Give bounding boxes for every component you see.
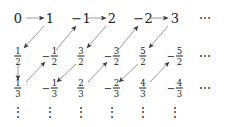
fraction-denominator: 3: [176, 89, 183, 98]
fraction-numerator: 2: [113, 79, 120, 88]
row-ellipsis-2: ⋯: [199, 81, 212, 95]
fraction: 32: [113, 47, 120, 66]
minus-sign: −: [42, 51, 50, 61]
fraction: 23: [77, 79, 84, 98]
grid-cell-r0-c3: 2: [108, 12, 116, 25]
fraction-denominator: 3: [77, 89, 84, 98]
fraction-denominator: 2: [51, 57, 58, 66]
grid-cell-r0-c0: 0: [14, 12, 22, 25]
fraction-numerator: 1: [14, 47, 21, 56]
fraction-numerator: 4: [139, 79, 146, 88]
fraction-denominator: 2: [14, 57, 21, 66]
integer-value: 2: [145, 12, 153, 25]
fraction: 43: [139, 79, 146, 98]
grid-cell-r1-c5: −52: [167, 47, 183, 66]
grid-cell-r1-c0: 12: [14, 47, 21, 66]
column-ellipsis-3: ⋮: [106, 106, 118, 118]
fraction-numerator: 1: [51, 47, 58, 56]
fraction-denominator: 2: [139, 57, 146, 66]
number-grid: 01−12−2312−1232−3252−5213−1323−2343−43⋯⋯…: [0, 0, 234, 127]
fraction: 12: [14, 47, 21, 66]
grid-cell-r0-c1: 1: [46, 12, 54, 25]
grid-cell-r2-c5: −43: [167, 79, 183, 98]
integer-value: 1: [83, 12, 91, 25]
minus-sign: −: [133, 12, 144, 25]
grid-cell-r2-c4: 43: [139, 79, 146, 98]
integer-value: 0: [14, 12, 22, 25]
integer-value: 2: [108, 12, 116, 25]
fraction-numerator: 5: [176, 47, 183, 56]
fraction-numerator: 3: [113, 47, 120, 56]
grid-cell-r0-c5: 3: [171, 12, 179, 25]
fraction: 13: [14, 79, 21, 98]
fraction-denominator: 3: [51, 89, 58, 98]
fraction-numerator: 4: [176, 79, 183, 88]
grid-cell-r2-c0: 13: [14, 79, 21, 98]
minus-sign: −: [167, 83, 175, 93]
fraction-denominator: 3: [14, 89, 21, 98]
grid-cell-r0-c4: −2: [133, 12, 153, 25]
fraction-numerator: 1: [14, 79, 21, 88]
grid-cell-r1-c1: −12: [42, 47, 58, 66]
fraction: 32: [77, 47, 84, 66]
fraction: 13: [51, 79, 58, 98]
fraction-numerator: 1: [51, 79, 58, 88]
minus-sign: −: [104, 51, 112, 61]
fraction: 43: [176, 79, 183, 98]
fraction: 12: [51, 47, 58, 66]
integer-value: 1: [46, 12, 54, 25]
grid-cell-r1-c4: 52: [139, 47, 146, 66]
column-ellipsis-1: ⋮: [44, 106, 56, 118]
fraction: 23: [113, 79, 120, 98]
minus-sign: −: [42, 83, 50, 93]
column-ellipsis-2: ⋮: [75, 106, 87, 118]
fraction: 52: [176, 47, 183, 66]
fraction-numerator: 3: [77, 47, 84, 56]
grid-cell-r1-c3: −32: [104, 47, 120, 66]
fraction-denominator: 3: [113, 89, 120, 98]
minus-sign: −: [71, 12, 82, 25]
fraction-denominator: 2: [77, 57, 84, 66]
column-ellipsis-4: ⋮: [137, 106, 149, 118]
column-ellipsis-5: ⋮: [169, 106, 181, 118]
minus-sign: −: [167, 51, 175, 61]
grid-cell-r0-c2: −1: [71, 12, 91, 25]
rational-enumeration-figure: 01−12−2312−1232−3252−5213−1323−2343−43⋯⋯…: [0, 0, 234, 127]
grid-cell-r2-c3: −23: [104, 79, 120, 98]
row-ellipsis-1: ⋯: [199, 49, 212, 63]
integer-value: 3: [171, 12, 179, 25]
fraction-numerator: 2: [77, 79, 84, 88]
fraction-denominator: 2: [113, 57, 120, 66]
minus-sign: −: [104, 83, 112, 93]
column-ellipsis-0: ⋮: [12, 106, 24, 118]
fraction-denominator: 3: [139, 89, 146, 98]
fraction-numerator: 5: [139, 47, 146, 56]
grid-cell-r2-c1: −13: [42, 79, 58, 98]
row-ellipsis-0: ⋯: [199, 11, 212, 25]
grid-cell-r1-c2: 32: [77, 47, 84, 66]
grid-cell-r2-c2: 23: [77, 79, 84, 98]
fraction-denominator: 2: [176, 57, 183, 66]
fraction: 52: [139, 47, 146, 66]
